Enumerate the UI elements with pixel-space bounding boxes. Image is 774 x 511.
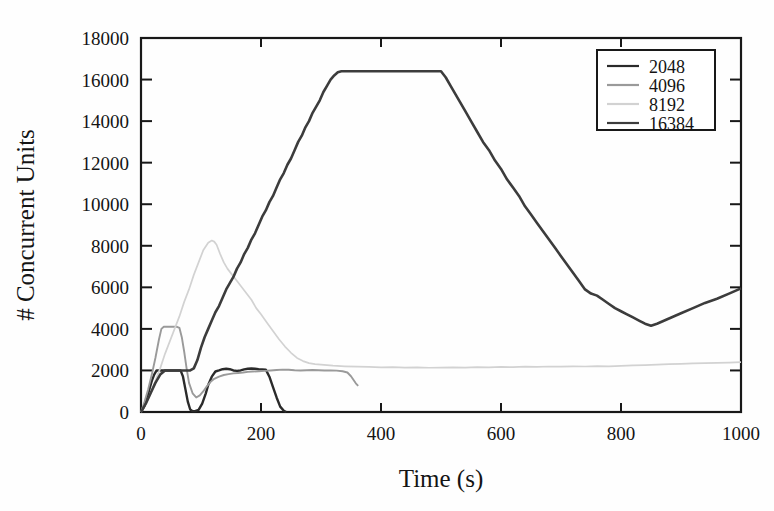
y-tick-label-2000: 2000: [91, 360, 129, 381]
x-axis-tick-labels: 02004006008001000: [136, 423, 760, 444]
concurrent-units-line-chart: 02004006008001000 0200040006000800010000…: [0, 0, 774, 511]
y-tick-label-16000: 16000: [82, 70, 130, 91]
x-tick-label-0: 0: [136, 423, 146, 444]
legend-label-4096: 4096: [649, 76, 685, 96]
x-tick-label-1000: 1000: [722, 423, 760, 444]
x-tick-label-200: 200: [247, 423, 276, 444]
y-tick-label-6000: 6000: [91, 277, 129, 298]
y-axis-tick-labels: 0200040006000800010000120001400016000180…: [82, 28, 130, 423]
y-tick-label-18000: 18000: [82, 28, 130, 49]
chart-legend: 20484096819216384: [597, 50, 715, 134]
y-axis-title: # Concurrent Units: [12, 129, 39, 321]
y-tick-label-8000: 8000: [91, 236, 129, 257]
x-axis-ticks: [261, 38, 621, 412]
y-tick-label-12000: 12000: [82, 153, 130, 174]
x-tick-label-400: 400: [367, 423, 396, 444]
legend-label-8192: 8192: [649, 95, 685, 115]
x-tick-label-600: 600: [487, 423, 516, 444]
y-tick-label-14000: 14000: [82, 111, 130, 132]
legend-label-16384: 16384: [649, 114, 694, 134]
y-tick-label-0: 0: [120, 402, 130, 423]
series-line-2048: [141, 369, 286, 412]
legend-label-2048: 2048: [649, 57, 685, 77]
y-tick-label-10000: 10000: [82, 194, 130, 215]
x-axis-title: Time (s): [399, 465, 484, 493]
figure-container: 02004006008001000 0200040006000800010000…: [0, 0, 774, 511]
x-tick-label-800: 800: [607, 423, 636, 444]
y-tick-label-4000: 4000: [91, 319, 129, 340]
